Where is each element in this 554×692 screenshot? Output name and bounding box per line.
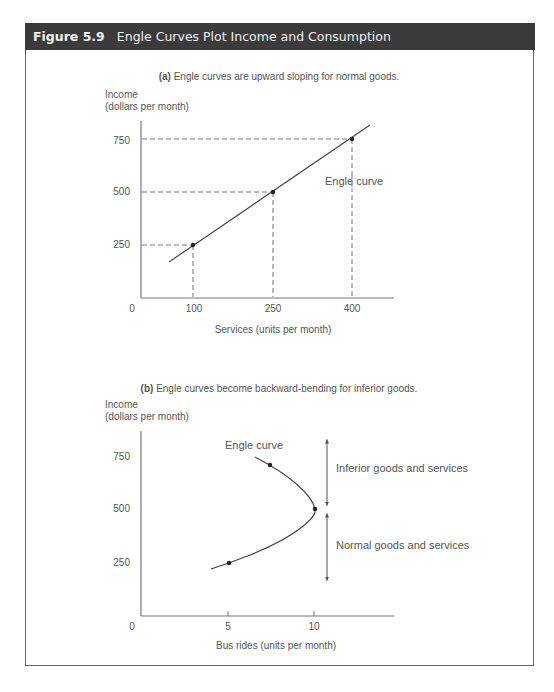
panel-b-xtick: 10 xyxy=(308,621,320,632)
panel-b-ylabel-line2: (dollars per month) xyxy=(105,411,189,422)
panel-b-origin: 0 xyxy=(129,621,135,632)
panel-b-ytick: 250 xyxy=(113,557,130,568)
panel-b-data-point xyxy=(313,507,317,511)
panel-b-curve-label: Engle curve xyxy=(225,439,283,451)
panel-a-xtick: 100 xyxy=(186,303,203,314)
panel-a-curve-label: Engle curve xyxy=(325,175,383,187)
figure-canvas: (a) Engle curves are upward sloping for … xyxy=(0,0,554,692)
normal-goods-label: Normal goods and services xyxy=(336,539,470,551)
panel-b-ylabel-line1: Income xyxy=(105,399,138,410)
panel-b-caption: (b) Engle curves become backward-bending… xyxy=(141,383,418,394)
panel-a-ylabel-line1: Income xyxy=(105,89,138,100)
inferior-goods-label: Inferior goods and services xyxy=(336,462,469,474)
panel-a-ylabel-line2: (dollars per month) xyxy=(105,101,189,112)
panel-b: (b) Engle curves become backward-bending… xyxy=(105,383,470,651)
panel-a-origin: 0 xyxy=(129,303,135,314)
panel-b-xlabel: Bus rides (units per month) xyxy=(216,640,336,651)
panel-b-data-point xyxy=(227,561,231,565)
panel-a-engle-curve xyxy=(169,125,370,262)
panel-a-xtick: 400 xyxy=(344,303,361,314)
panel-a: (a) Engle curves are upward sloping for … xyxy=(105,71,399,335)
panel-a-data-point xyxy=(191,243,195,247)
panel-a-caption: (a) Engle curves are upward sloping for … xyxy=(159,71,400,82)
panel-b-ytick: 750 xyxy=(113,451,130,462)
panel-b-ytick: 500 xyxy=(113,503,130,514)
panel-a-data-point xyxy=(271,190,275,194)
panel-a-ytick: 250 xyxy=(113,239,130,250)
panel-b-xtick: 5 xyxy=(225,621,231,632)
panel-a-reference-lines xyxy=(142,139,352,297)
panel-b-engle-curve xyxy=(211,457,315,569)
panel-a-xtick: 250 xyxy=(265,303,282,314)
panel-a-ytick: 750 xyxy=(113,135,130,146)
panel-a-data-point xyxy=(350,137,354,141)
panel-b-data-point xyxy=(268,463,272,467)
panel-a-ytick: 500 xyxy=(113,186,130,197)
panel-a-xlabel: Services (units per month) xyxy=(215,324,332,335)
